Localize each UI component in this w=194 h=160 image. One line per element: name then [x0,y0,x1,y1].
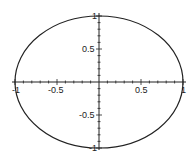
circle-plot: -1 -0.5 0.5 1 1 0.5 -0.5 -1 [0,0,194,160]
y-tick-label: -0.5 [79,110,95,120]
x-tick-label: -0.5 [48,85,64,95]
x-tick-label: -1 [12,85,20,95]
x-tick-label: 0.5 [135,85,148,95]
x-tick-label: 1 [181,85,186,95]
y-tick-label: 0.5 [82,44,95,54]
y-tick-label: 1 [92,11,97,21]
y-tick-label: -1 [89,143,97,153]
